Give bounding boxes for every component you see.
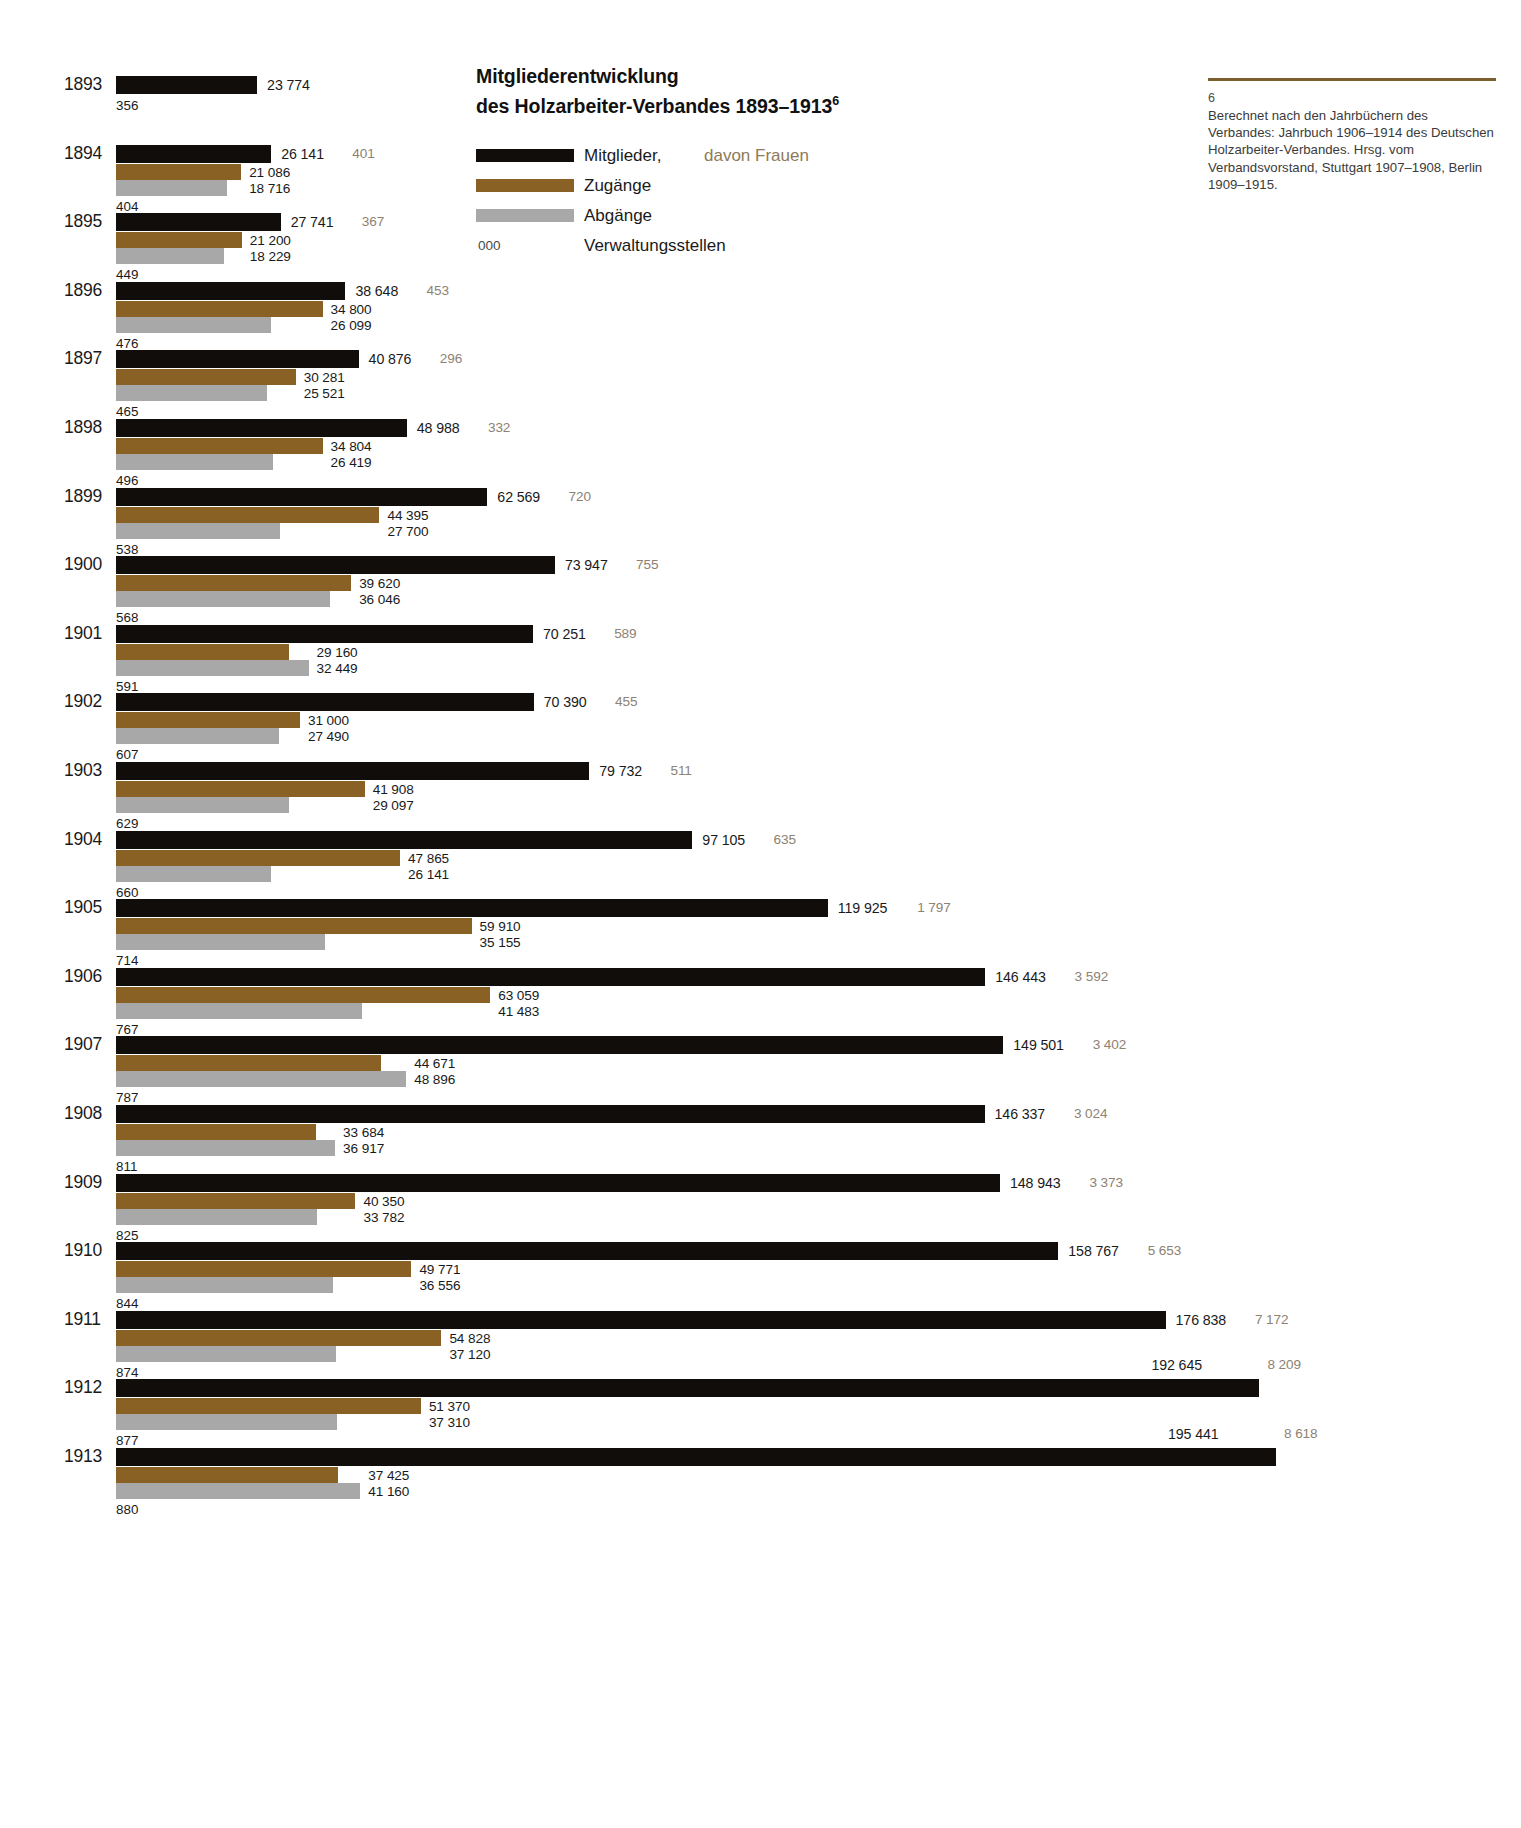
value-davon-frauen: 367 xyxy=(362,214,384,229)
legend-swatch-abgaenge xyxy=(476,209,574,222)
bar-zugaenge xyxy=(116,369,296,385)
value-mitglieder: 70 251 xyxy=(543,626,586,642)
value-abgaenge: 27 490 xyxy=(308,729,349,744)
year-label: 1901 xyxy=(64,623,102,644)
bar-group xyxy=(116,1311,1166,1362)
value-mitglieder: 146 443 xyxy=(995,969,1046,985)
value-mitglieder: 148 943 xyxy=(1010,1175,1061,1191)
value-abgaenge: 32 449 xyxy=(317,661,358,676)
chart-title: Mitgliederentwicklung des Holzarbeiter-V… xyxy=(476,64,906,119)
bar-abgaenge xyxy=(116,1071,406,1087)
value-mitglieder: 176 838 xyxy=(1176,1312,1227,1328)
bar-mitglieder xyxy=(116,76,257,94)
bar-zugaenge xyxy=(116,1398,421,1414)
year-label: 1908 xyxy=(64,1103,102,1124)
year-label: 1899 xyxy=(64,486,102,507)
value-abgaenge: 18 716 xyxy=(249,181,290,196)
value-verwaltungsstellen: 465 xyxy=(116,404,138,419)
legend-sample-number: 000 xyxy=(478,232,501,260)
legend-swatch-mitglieder xyxy=(476,149,574,162)
value-abgaenge: 36 046 xyxy=(359,592,400,607)
bar-mitglieder xyxy=(116,1174,1000,1192)
year-label: 1895 xyxy=(64,211,102,232)
bar-zugaenge xyxy=(116,1055,381,1071)
bar-mitglieder xyxy=(116,419,407,437)
value-verwaltungsstellen: 629 xyxy=(116,816,138,831)
bar-abgaenge xyxy=(116,317,271,333)
year-label: 1905 xyxy=(64,897,102,918)
value-mitglieder: 62 569 xyxy=(497,489,540,505)
value-zugaenge: 54 828 xyxy=(449,1331,490,1346)
value-zugaenge: 33 684 xyxy=(343,1125,384,1140)
value-mitglieder: 195 441 xyxy=(1168,1426,1219,1442)
bar-zugaenge xyxy=(116,1330,441,1346)
bar-mitglieder xyxy=(116,762,589,780)
value-mitglieder: 146 337 xyxy=(995,1106,1046,1122)
bar-abgaenge xyxy=(116,1003,362,1019)
bar-mitglieder xyxy=(116,1105,985,1123)
bar-group xyxy=(116,762,589,813)
value-verwaltungsstellen: 356 xyxy=(116,98,138,113)
value-mitglieder: 26 141 xyxy=(281,146,324,162)
bar-zugaenge xyxy=(116,164,241,180)
bar-zugaenge xyxy=(116,1261,411,1277)
bar-mitglieder xyxy=(116,1311,1166,1329)
bar-group xyxy=(116,1105,985,1156)
bar-group xyxy=(116,556,555,607)
bar-zugaenge xyxy=(116,987,490,1003)
value-zugaenge: 49 771 xyxy=(419,1262,460,1277)
title-line-2: des Holzarbeiter-Verbandes 1893–19136 xyxy=(476,89,906,119)
value-verwaltungsstellen: 787 xyxy=(116,1090,138,1105)
bar-abgaenge xyxy=(116,385,267,401)
value-mitglieder: 119 925 xyxy=(838,900,888,916)
year-label: 1900 xyxy=(64,554,102,575)
year-label: 1893 xyxy=(64,74,102,95)
title-footnote-marker: 6 xyxy=(832,94,839,108)
footnote-number: 6 xyxy=(1208,90,1498,107)
year-label: 1906 xyxy=(64,966,102,987)
value-davon-frauen: 296 xyxy=(440,351,462,366)
value-verwaltungsstellen: 877 xyxy=(116,1433,138,1448)
value-mitglieder: 27 741 xyxy=(291,214,334,230)
value-abgaenge: 29 097 xyxy=(373,798,414,813)
value-verwaltungsstellen: 496 xyxy=(116,473,138,488)
value-abgaenge: 27 700 xyxy=(387,524,428,539)
bar-mitglieder xyxy=(116,1242,1058,1260)
value-zugaenge: 34 804 xyxy=(331,439,372,454)
value-verwaltungsstellen: 476 xyxy=(116,336,138,351)
value-abgaenge: 35 155 xyxy=(480,935,521,950)
bar-mitglieder xyxy=(116,282,345,300)
value-zugaenge: 44 395 xyxy=(387,508,428,523)
value-davon-frauen: 332 xyxy=(488,420,510,435)
legend-item-abgaenge: Abgänge xyxy=(476,202,906,232)
value-abgaenge: 18 229 xyxy=(250,249,291,264)
value-mitglieder: 38 648 xyxy=(355,283,398,299)
value-verwaltungsstellen: 825 xyxy=(116,1228,138,1243)
value-davon-frauen: 8 209 xyxy=(1267,1357,1301,1372)
bar-zugaenge xyxy=(116,507,379,523)
value-zugaenge: 21 086 xyxy=(249,165,290,180)
bar-abgaenge xyxy=(116,660,309,676)
bar-abgaenge xyxy=(116,180,227,196)
bar-zugaenge xyxy=(116,438,323,454)
value-abgaenge: 26 099 xyxy=(331,318,372,333)
legend-label-verwaltungsstellen: Verwaltungsstellen xyxy=(584,232,726,260)
value-zugaenge: 21 200 xyxy=(250,233,291,248)
value-verwaltungsstellen: 874 xyxy=(116,1365,138,1380)
year-label: 1894 xyxy=(64,143,102,164)
year-label: 1909 xyxy=(64,1172,102,1193)
bar-abgaenge xyxy=(116,1483,360,1499)
bar-group xyxy=(116,1379,1259,1430)
bar-zugaenge xyxy=(116,1193,355,1209)
value-zugaenge: 29 160 xyxy=(317,645,358,660)
year-label: 1896 xyxy=(64,280,102,301)
bar-zugaenge xyxy=(116,644,289,660)
value-abgaenge: 26 141 xyxy=(408,867,449,882)
bar-zugaenge xyxy=(116,575,351,591)
title-line-2-text: des Holzarbeiter-Verbandes 1893–1913 xyxy=(476,95,832,117)
bar-mitglieder xyxy=(116,968,985,986)
bar-mitglieder xyxy=(116,693,534,711)
value-mitglieder: 149 501 xyxy=(1013,1037,1064,1053)
value-verwaltungsstellen: 607 xyxy=(116,747,138,762)
year-label: 1898 xyxy=(64,417,102,438)
